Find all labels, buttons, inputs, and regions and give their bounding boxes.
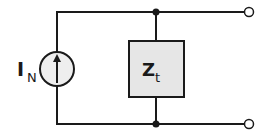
terminal-top <box>245 8 254 17</box>
source-label-main: I <box>17 58 24 80</box>
impedance-label-sub: t <box>155 70 160 85</box>
junction-dot-top <box>153 9 160 16</box>
impedance-box <box>129 41 184 97</box>
norton-circuit-diagram: I N Z t <box>0 0 273 139</box>
current-source <box>40 52 74 86</box>
source-label-sub: N <box>27 70 37 85</box>
impedance-label-main: Z <box>142 59 155 80</box>
junction-dot-bottom <box>153 121 160 128</box>
terminal-bottom <box>245 120 254 129</box>
